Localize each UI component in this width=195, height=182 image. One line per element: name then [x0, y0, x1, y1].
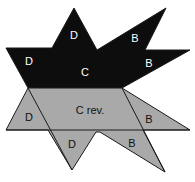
label-bottom-d2: D: [68, 138, 76, 150]
label-top-b2: B: [145, 57, 152, 69]
label-top-c: C: [81, 66, 89, 78]
tangram-diagram: [0, 0, 195, 182]
label-bottom-d1: D: [25, 111, 33, 123]
top-shape-black: [6, 8, 190, 88]
label-bottom-b1: B: [145, 113, 152, 125]
label-bottom-b2: B: [128, 137, 135, 149]
label-top-d2: D: [25, 55, 33, 67]
label-bottom-c-rev: C rev.: [76, 104, 105, 116]
label-top-b1: B: [131, 32, 138, 44]
label-top-d1: D: [70, 29, 78, 41]
